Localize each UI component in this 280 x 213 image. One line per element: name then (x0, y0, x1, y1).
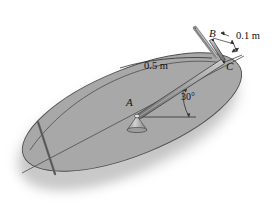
mechanics-figure: A B C 0.5 m 0.1 m 30° (0, 0, 280, 213)
label-point-a: A (126, 97, 133, 108)
dimension-label-offset: 0.1 m (236, 31, 260, 42)
dimension-label-rod-length: 0.5 m (144, 61, 168, 72)
angle-label-30deg: 30° (181, 92, 195, 102)
label-point-c: C (226, 61, 233, 72)
label-point-b: B (209, 28, 216, 39)
